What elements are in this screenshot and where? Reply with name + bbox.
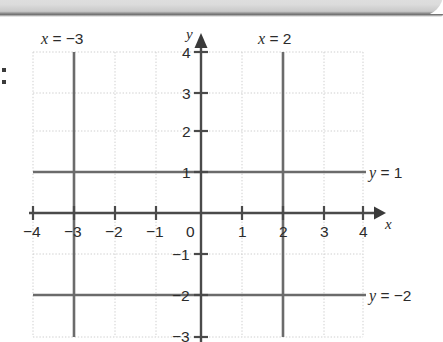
annotation-x-eq-neg3: x = −3 [41,31,83,47]
y-tick-label-3: 3 [182,86,191,102]
x-tick-label-neg2: −2 [105,224,123,240]
x-tick-label-neg1: −1 [146,224,164,240]
axes [29,40,374,342]
y-tick-label-1: 1 [182,165,191,181]
x-tick-label-neg3: −3 [64,224,82,240]
x-tick-label-1: 1 [238,224,247,240]
x-tick-label-neg4: −4 [23,224,41,240]
y-axis-arrowhead [195,33,208,48]
annotation-x-eq-neg3-eq: = [52,30,61,47]
annotation-x-eq-2-val: 2 [283,30,292,47]
annotation-x-eq-2-eq: = [269,30,278,47]
x-axis-label: x [385,217,392,232]
y-axis-label: y [186,27,193,42]
annotation-x-eq-neg3-val: −3 [66,30,84,47]
annotation-x-eq-2: x = 2 [258,31,291,47]
y-tick-label-neg2: −2 [172,288,190,304]
x-tick-label-zero: 0 [186,224,195,240]
y-tick-label-2: 2 [182,124,191,140]
y-tick-label-neg1: −1 [172,247,190,263]
annotation-y-eq-neg2-var: y [369,287,376,304]
y-tick-label-4: 4 [182,45,191,61]
x-tick-label-4: 4 [359,224,368,240]
annotation-y-eq-neg2-eq: = [380,287,389,304]
annotation-y-eq-1-eq: = [380,164,389,181]
x-tick-label-2: 2 [279,224,288,240]
annotation-y-eq-1-val: 1 [394,164,403,181]
x-tick-label-3: 3 [320,224,329,240]
annotation-y-eq-1: y = 1 [369,165,402,181]
annotation-y-eq-neg2: y = −2 [369,288,411,304]
annotation-x-eq-2-var: x [258,30,265,47]
y-tick-label-neg3: −3 [172,329,190,342]
annotation-y-eq-neg2-val: −2 [394,287,412,304]
annotation-x-eq-neg3-var: x [41,30,48,47]
annotation-y-eq-1-var: y [369,164,376,181]
